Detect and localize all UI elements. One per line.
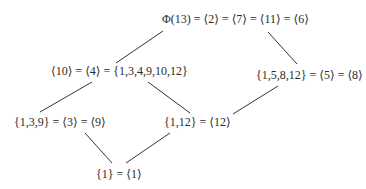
node-order6-subgroup: ⟨10⟩ = ⟨4⟩ = {1,3,4,9,10,12}: [51, 64, 188, 78]
edge-order4-order2: [233, 86, 278, 114]
edge-order6-order2: [148, 82, 190, 113]
node-top-group: Φ(13) = ⟨2⟩ = ⟨7⟩ = ⟨11⟩ = ⟨6⟩: [162, 12, 309, 26]
node-order3-subgroup: {1,3,9} = ⟨3⟩ = ⟨9⟩: [14, 115, 106, 129]
lattice-diagram: Φ(13) = ⟨2⟩ = ⟨7⟩ = ⟨11⟩ = ⟨6⟩ ⟨10⟩ = ⟨4…: [0, 0, 366, 189]
node-order4-subgroup: {1,5,8,12} = ⟨5⟩ = ⟨8⟩: [256, 68, 363, 82]
edge-top-order4: [268, 32, 297, 64]
lattice-edges: [0, 0, 366, 189]
edge-order3-bottom: [85, 133, 112, 163]
node-trivial-subgroup: {1} = ⟨1⟩: [96, 167, 142, 181]
edge-top-order6: [116, 31, 163, 63]
edge-order6-order3: [40, 82, 92, 112]
edge-order2-bottom: [126, 133, 170, 163]
node-order2-subgroup: {1,12} = ⟨12⟩: [164, 115, 231, 129]
